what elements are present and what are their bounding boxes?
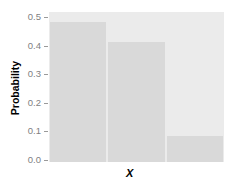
y-tick-mark: [44, 74, 48, 75]
y-tick-label: 0.0: [0, 155, 41, 165]
plot-panel: [49, 12, 224, 162]
y-tick-mark: [44, 103, 48, 104]
y-tick-label: 0.4: [0, 41, 41, 51]
y-tick-mark: [44, 46, 48, 47]
y-tick-label: 0.1: [0, 126, 41, 136]
bar-2: [108, 42, 165, 162]
y-axis-label: Probability: [9, 53, 21, 123]
y-tick-mark: [44, 131, 48, 132]
bar-3: [167, 136, 223, 162]
y-tick-label: 0.5: [0, 12, 41, 22]
bar-1: [50, 22, 106, 162]
y-tick-mark: [44, 17, 48, 18]
y-tick-mark: [44, 160, 48, 161]
x-axis-label: X: [126, 167, 133, 179]
